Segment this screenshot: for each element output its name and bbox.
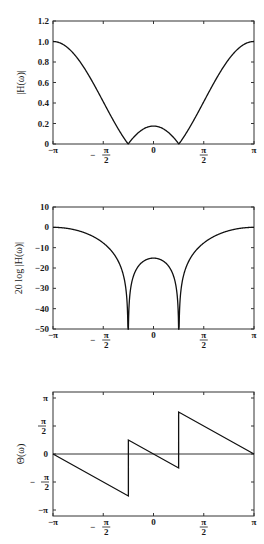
tick-label: −	[90, 335, 95, 345]
tick-label: 2	[202, 155, 207, 165]
y-tick-label: −π	[38, 505, 48, 515]
tick-label: 2	[104, 155, 109, 165]
tick-label: −π	[48, 145, 58, 155]
y-tick-label: 1.2	[38, 16, 50, 26]
y-tick-label: −50	[35, 324, 50, 334]
tick-label: π	[104, 145, 109, 155]
plot-frame	[53, 207, 254, 329]
tick-label: π	[104, 517, 109, 527]
y-tick-label: 0.6	[38, 78, 50, 88]
tick-label: 0	[151, 330, 156, 340]
phase-plot: −ππ2−0π2πππ20π2−−πΘ(ω)	[15, 392, 257, 537]
tick-label: −	[90, 150, 95, 160]
y-tick-label: 0	[45, 139, 50, 149]
db-magnitude-plot: −ππ2−0π2π−50−40−30−20−1001020 log |H(ω)|	[13, 202, 257, 350]
y-tick-label: 10	[40, 202, 50, 212]
tick-label: −	[30, 477, 35, 487]
tick-label: 2	[202, 340, 207, 350]
db-curve	[53, 227, 254, 329]
tick-label: π	[41, 416, 46, 426]
y-tick-label: −20	[35, 263, 50, 273]
y-tick-label: π	[43, 393, 48, 403]
y-tick-label: 0.2	[38, 119, 50, 129]
magnitude-plot: −ππ2−0π2π00.20.40.60.81.01.2|H(ω)|	[15, 16, 257, 165]
tick-label: 2	[104, 340, 109, 350]
tick-label: 0	[151, 517, 156, 527]
y-tick-label: −30	[35, 283, 50, 293]
tick-label: π	[252, 330, 257, 340]
y-tick-label: 1.0	[38, 37, 50, 47]
y-axis-label: 20 log |H(ω)|	[13, 242, 25, 294]
tick-label: −π	[48, 330, 58, 340]
tick-label: −π	[48, 517, 58, 527]
tick-label: 2	[202, 527, 207, 537]
tick-label: −	[90, 522, 95, 532]
y-tick-label: 0	[45, 222, 50, 232]
y-axis-label: Θ(ω)	[15, 444, 27, 464]
tick-label: π	[201, 330, 206, 340]
figure: −ππ2−0π2π00.20.40.60.81.01.2|H(ω)|−ππ2−0…	[0, 0, 264, 544]
tick-label: π	[104, 330, 109, 340]
y-tick-label: 0.8	[38, 57, 50, 67]
tick-label: π	[252, 145, 257, 155]
y-tick-label: −10	[35, 243, 50, 253]
y-tick-label: 0	[44, 449, 49, 459]
tick-label: π	[201, 517, 206, 527]
magnitude-curve	[53, 42, 254, 144]
tick-label: 2	[42, 426, 47, 436]
tick-label: 0	[151, 145, 156, 155]
tick-label: 2	[45, 482, 50, 492]
tick-label: π	[44, 472, 49, 482]
y-axis-label: |H(ω)|	[15, 70, 27, 94]
tick-label: 2	[104, 527, 109, 537]
y-tick-label: 0.4	[38, 98, 50, 108]
y-tick-label: −40	[35, 304, 50, 314]
tick-label: π	[201, 145, 206, 155]
tick-label: π	[252, 517, 257, 527]
